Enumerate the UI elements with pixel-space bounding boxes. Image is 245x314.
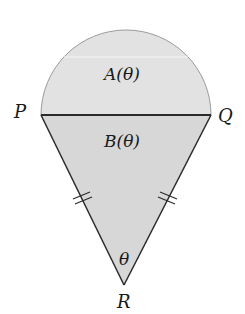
semicircle-triangle-diagram: P Q R A(θ) B(θ) θ (0, 0, 245, 314)
angle-label-theta: θ (119, 249, 129, 269)
vertex-label-p: P (13, 101, 27, 122)
region-label-b: B(θ) (103, 131, 140, 151)
vertex-label-q: Q (218, 105, 233, 126)
vertex-label-r: R (116, 291, 131, 312)
region-label-a: A(θ) (102, 64, 140, 84)
